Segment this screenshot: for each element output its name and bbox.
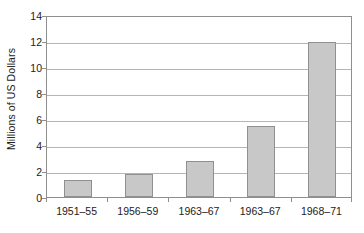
x-axis-tick-mark (107, 198, 108, 202)
y-axis-tick-label: 0 (20, 193, 42, 203)
x-axis-tick-mark (351, 198, 352, 202)
y-axis-title: Millions of US Dollars (2, 0, 20, 198)
y-axis-tick-label: 14 (20, 11, 42, 21)
x-axis-tick-marks (46, 198, 352, 203)
y-axis-tick-label: 6 (20, 115, 42, 125)
y-axis-tick-labels: 02468101214 (20, 16, 42, 198)
bar (186, 161, 214, 197)
bar-chart-figure: Millions of US Dollars 02468101214 1951–… (0, 0, 364, 233)
x-axis-tick-labels: 1951–551956–591963–671963–671968–71 (46, 205, 352, 221)
bar-series (47, 17, 351, 197)
y-axis-tick-label: 12 (20, 37, 42, 47)
bar (247, 126, 275, 197)
plot-area (46, 16, 352, 198)
x-axis-tick-label: 1951–55 (56, 205, 97, 217)
x-axis-tick-label: 1963–67 (240, 205, 281, 217)
x-axis-tick-mark (168, 198, 169, 202)
y-axis-tick-label: 10 (20, 63, 42, 73)
y-axis-tick-label: 2 (20, 167, 42, 177)
y-axis-tick-label: 4 (20, 141, 42, 151)
bar (308, 42, 336, 197)
bar (125, 174, 153, 197)
x-axis-tick-mark (291, 198, 292, 202)
y-axis-tick-label: 8 (20, 89, 42, 99)
x-axis-tick-label: 1963–67 (179, 205, 220, 217)
x-axis-tick-label: 1968–71 (301, 205, 342, 217)
x-axis-tick-mark (46, 198, 47, 202)
x-axis-tick-label: 1956–59 (117, 205, 158, 217)
bar (64, 180, 92, 197)
x-axis-tick-mark (230, 198, 231, 202)
